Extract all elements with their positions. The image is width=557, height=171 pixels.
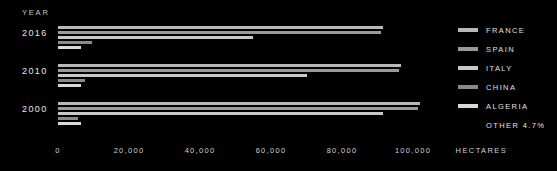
legend-other-label: OTHER 4.7% [486,121,545,130]
x-axis: 020,00040,00060,00080,000100,000HECTARES [0,146,557,160]
year-label: 2016 [22,28,48,38]
legend-item[interactable]: SPAIN [458,45,545,53]
legend-swatch-icon [458,104,478,108]
bar [58,69,399,72]
legend-item[interactable]: FRANCE [458,26,545,34]
legend-item[interactable]: ALGERIA [458,102,545,110]
bar [58,102,420,105]
x-axis-tick-label: 60,000 [256,146,287,155]
legend-swatch-icon [458,66,478,70]
legend: FRANCESPAINITALYCHINAALGERIAOTHER 4.7% [458,26,545,130]
bars [58,64,401,89]
legend-item[interactable]: CHINA [458,83,545,91]
x-axis-unit-label: HECTARES [456,146,507,155]
x-axis-tick-label: 0 [55,146,60,155]
bar [58,64,401,67]
legend-item-label: CHINA [486,83,516,92]
year-label: 2010 [22,66,48,76]
bars [58,26,383,51]
bar [58,74,307,77]
legend-item-label: ITALY [486,64,513,73]
legend-item-label: ALGERIA [486,102,528,111]
year-label: 2000 [22,104,48,114]
bar [58,107,418,110]
x-axis-tick-label: 100,000 [395,146,431,155]
legend-item-label: FRANCE [486,26,525,35]
x-axis-tick-label: 40,000 [185,146,216,155]
legend-item-label: SPAIN [486,45,515,54]
x-axis-tick-label: 20,000 [114,146,145,155]
bar [58,41,92,44]
bar [58,79,85,82]
bars [58,102,420,127]
bar [58,112,383,115]
legend-item[interactable]: ITALY [458,64,545,72]
legend-swatch-icon [458,85,478,89]
bar [58,36,253,39]
x-axis-tick-label: 80,000 [327,146,358,155]
legend-swatch-icon [458,47,478,51]
bar [58,46,81,49]
bar [58,122,81,125]
axis-title-year: YEAR [22,8,50,17]
bar [58,26,383,29]
chart-root: YEAR 201620102000 020,00040,00060,00080,… [0,0,557,171]
legend-swatch-icon [458,28,478,32]
bar [58,31,381,34]
bar [58,84,81,87]
bar [58,117,78,120]
